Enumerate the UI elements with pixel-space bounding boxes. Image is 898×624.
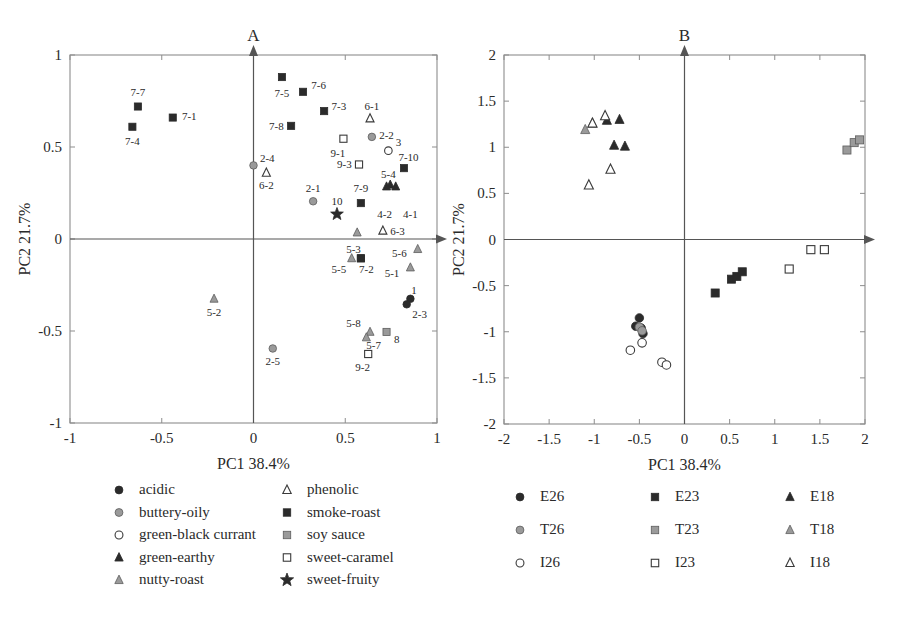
data-point-triangle-filled-dark	[620, 141, 629, 150]
data-point-square-filled-gray	[283, 531, 290, 538]
y-tick-label: -0.5	[472, 278, 496, 294]
legend-item[interactable]: green-black currant	[115, 526, 257, 542]
x-tick-label: -2	[498, 431, 511, 447]
data-point-square-open	[340, 135, 347, 142]
data-point-square-filled-dark	[134, 103, 141, 110]
legend-label: green-earthy	[139, 549, 215, 565]
x-tick-label: -1	[64, 430, 77, 446]
legend-label: sweet-fruity	[307, 571, 380, 587]
data-point-square-filled-dark	[299, 88, 306, 95]
data-point-square-open	[785, 265, 793, 273]
legend-item[interactable]: phenolic	[283, 481, 359, 497]
legend-item[interactable]: I26	[516, 554, 560, 570]
point-label: 8	[394, 333, 400, 345]
point-label: 4-1	[403, 208, 418, 220]
point-label: 7-2	[359, 263, 374, 275]
legend-item[interactable]: T18	[786, 521, 834, 537]
data-point-circle-open	[516, 559, 524, 567]
data-point-triangle-filled-dark	[115, 553, 123, 561]
point-label: 5-4	[381, 168, 396, 180]
legend-item[interactable]: acidic	[115, 481, 175, 497]
panel-title-B: B	[679, 26, 690, 45]
y-tick-label: -1.5	[472, 370, 496, 386]
data-point-circle-open	[385, 147, 393, 155]
data-point-square-filled-dark	[321, 108, 328, 115]
x-axis-title: PC1 38.4%	[648, 456, 721, 473]
x-tick-label: 0	[681, 431, 689, 447]
point-label: 9-2	[355, 361, 370, 373]
x-tick-label: 1.5	[811, 431, 830, 447]
data-point-square-open	[807, 246, 815, 254]
data-point-circle-filled-dark	[516, 493, 524, 501]
y-tick-label: -1	[484, 324, 497, 340]
legend-item[interactable]: T26	[516, 521, 565, 537]
data-point-triangle-filled-dark	[786, 492, 794, 500]
data-point-square-filled-dark	[288, 122, 295, 129]
legend-item[interactable]: I18	[786, 554, 830, 570]
data-point-circle-filled-dark	[115, 486, 123, 494]
y-axis-title: PC2 21.7%	[16, 203, 33, 276]
data-point-square-filled-dark	[400, 165, 407, 172]
legend-item[interactable]: sweet-caramel	[283, 549, 393, 565]
data-point-triangle-open	[366, 114, 374, 122]
y-tick-label: 2	[489, 47, 497, 63]
legend-item[interactable]: buttery-oily	[115, 504, 210, 520]
point-label: 7-10	[398, 151, 419, 163]
point-label: 6-1	[365, 100, 380, 112]
legend-label: T26	[540, 521, 565, 537]
data-point-square-filled-dark	[711, 289, 719, 297]
legend-item[interactable]: E18	[786, 488, 834, 504]
pca-biplot-figure: -1-0.500.51-1-0.500.51APC1 38.4%PC2 21.7…	[0, 0, 898, 624]
legend-item[interactable]: E26	[516, 488, 565, 504]
legend-item[interactable]: smoke-roast	[283, 504, 381, 520]
data-point-square-filled-dark	[129, 123, 136, 130]
point-label: 6-2	[259, 179, 274, 191]
data-point-circle-filled-gray	[309, 198, 317, 206]
legend-item[interactable]: I23	[651, 554, 695, 570]
data-point-circle-open	[662, 361, 671, 370]
legend-item[interactable]: sweet-fruity	[280, 571, 380, 587]
x-axis-title: PC1 38.4%	[217, 455, 290, 472]
x-tick-label: -0.5	[150, 430, 174, 446]
legend-item[interactable]: soy sauce	[283, 526, 365, 542]
data-point-square-filled-gray	[383, 328, 390, 335]
legend-label: E18	[810, 488, 834, 504]
point-label: 7-4	[125, 135, 140, 147]
data-point-square-filled-dark	[278, 74, 285, 81]
point-label: 5-8	[346, 317, 361, 329]
point-label: 10	[331, 195, 343, 207]
legend-item[interactable]: nutty-roast	[115, 571, 205, 587]
data-point-circle-filled-dark	[403, 301, 411, 309]
x-tick-label: 2	[861, 431, 869, 447]
data-point-triangle-filled-gray	[406, 263, 414, 271]
data-point-star-filled	[280, 573, 293, 586]
legend-item[interactable]: T23	[651, 521, 699, 537]
data-point-circle-open	[626, 346, 635, 355]
x-tick-label: 1	[433, 430, 441, 446]
point-label: 5-6	[392, 247, 407, 259]
data-point-circle-filled-gray	[250, 162, 258, 170]
data-point-star-filled	[331, 207, 344, 219]
data-point-triangle-open	[588, 118, 597, 127]
data-point-square-open	[283, 554, 290, 561]
legend-item[interactable]: E23	[651, 488, 699, 504]
data-point-square-open	[651, 559, 658, 566]
data-point-circle-open	[115, 531, 123, 539]
legend-item[interactable]: green-earthy	[115, 549, 215, 565]
data-point-triangle-open	[262, 168, 270, 176]
legend-panel-a: acidicbuttery-oilygreen-black currantgre…	[115, 481, 394, 587]
data-point-triangle-open	[283, 485, 291, 493]
data-point-triangle-filled-gray	[414, 244, 422, 252]
y-tick-label: -1	[50, 415, 63, 431]
data-point-square-open	[820, 246, 828, 254]
y-tick-label: 1	[55, 47, 63, 63]
point-label: 7-1	[182, 110, 197, 122]
data-point-circle-filled-gray	[516, 526, 524, 534]
data-point-square-filled-dark	[651, 493, 658, 500]
point-label: 6-3	[390, 225, 405, 237]
legend-label: T18	[810, 521, 834, 537]
data-point-square-open	[355, 161, 362, 168]
x-tick-label: 0.5	[720, 431, 739, 447]
data-point-triangle-open	[786, 558, 794, 566]
legend-label: buttery-oily	[139, 504, 210, 520]
